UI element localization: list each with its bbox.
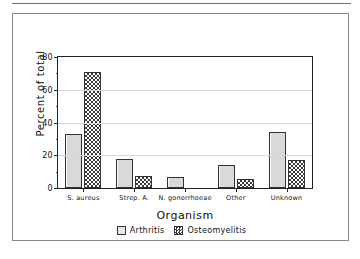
x-tick-label: Strep. A. [119, 194, 149, 202]
y-gridline [58, 123, 312, 124]
x-tick-label: Other [226, 194, 245, 202]
legend-label: Arthritis [130, 226, 165, 235]
y-tick-label: 80 [42, 53, 53, 62]
plot-wrapper: Percent of total 020406080S. aureusStrep… [13, 14, 350, 242]
chart-panel: Percent of total 020406080S. aureusStrep… [12, 13, 349, 241]
y-tick-minor [56, 73, 58, 74]
x-tick-label: S. aureus [67, 194, 99, 202]
y-tick-minor [56, 139, 58, 140]
y-tick-label: 60 [42, 85, 53, 94]
y-tick-label: 0 [48, 184, 53, 193]
chart-legend: ArthritisOsteomyelitis [13, 226, 350, 235]
x-tick-mark [83, 188, 84, 192]
legend-swatch-osteomyelitis [174, 226, 183, 235]
y-tick-minor [56, 106, 58, 107]
y-tick-mark [54, 90, 58, 91]
page-top-rule [12, 3, 351, 4]
legend-label: Osteomyelitis [187, 226, 246, 235]
y-tick-mark [54, 155, 58, 156]
y-tick-mark [54, 123, 58, 124]
bar-osteomyelitis-other [237, 179, 254, 188]
plot-area: 020406080S. aureusStrep. A.N. gonorrhoea… [57, 56, 313, 189]
x-tick-mark [134, 188, 135, 192]
bar-arthritis-s-aureus [65, 134, 82, 188]
legend-item-arthritis[interactable]: Arthritis [117, 226, 165, 235]
bar-osteomyelitis-unknown [288, 160, 305, 188]
y-gridline [58, 155, 312, 156]
x-axis-title: Organism [57, 209, 313, 222]
figure-root: Percent of total 020406080S. aureusStrep… [0, 0, 360, 259]
legend-swatch-arthritis [117, 226, 126, 235]
x-tick-mark [236, 188, 237, 192]
x-tick-mark [185, 188, 186, 192]
y-tick-mark [54, 188, 58, 189]
y-tick-label: 20 [42, 151, 53, 160]
legend-item-osteomyelitis[interactable]: Osteomyelitis [174, 226, 246, 235]
y-gridline [58, 90, 312, 91]
y-tick-minor [56, 172, 58, 173]
bar-arthritis-n-gonorrhoeae [167, 177, 184, 188]
y-tick-mark [54, 57, 58, 58]
bar-osteomyelitis-strep-a [135, 176, 152, 188]
bar-arthritis-other [218, 165, 235, 188]
x-tick-label: N. gonorrhoeae [158, 194, 211, 202]
bar-arthritis-strep-a [116, 159, 133, 188]
y-tick-label: 40 [42, 118, 53, 127]
x-tick-label: Unknown [271, 194, 303, 202]
bar-arthritis-unknown [269, 132, 286, 188]
x-tick-mark [287, 188, 288, 192]
